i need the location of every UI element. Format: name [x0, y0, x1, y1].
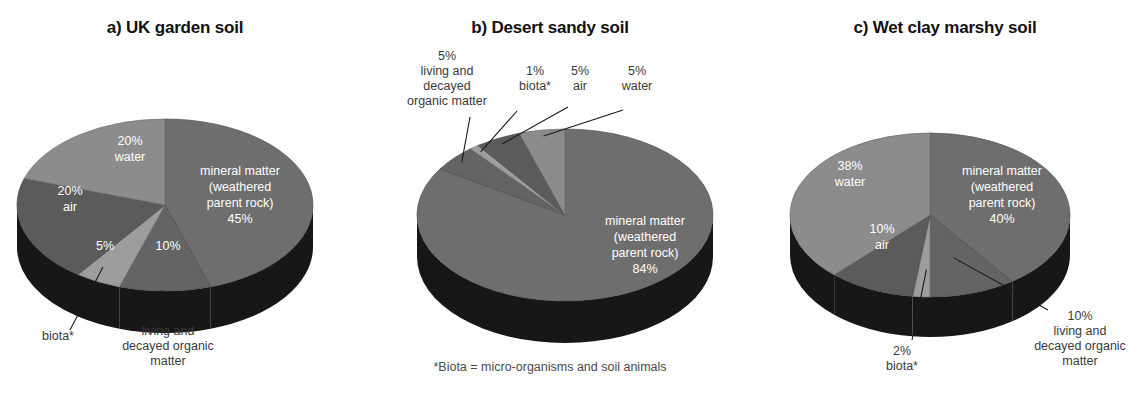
pie-label: 10%: [155, 239, 180, 253]
pie-label: 2%biota*: [886, 344, 918, 373]
pie-label: biota*: [42, 329, 74, 343]
pie-label: 5%living anddecayedorganic matter: [407, 49, 487, 108]
pie-svg-a: mineral matter(weatheredparent rock)45%2…: [0, 0, 350, 399]
chart-panel-desert-sandy-soil: b) Desert sandy soil mineral matter(weat…: [350, 0, 750, 399]
pie-label: 5%water: [621, 64, 653, 93]
chart-panel-uk-garden-soil: a) UK garden soil mineral matter(weather…: [0, 0, 350, 399]
pie-side-wall: [912, 296, 930, 337]
pie-label: 5%: [96, 239, 114, 253]
figure-canvas: a) UK garden soil mineral matter(weather…: [0, 0, 1140, 399]
pie-svg-c: mineral matter(weatheredparent rock)40%3…: [750, 0, 1140, 399]
biota-footnote: *Biota = micro-organisms and soil animal…: [350, 360, 750, 374]
pie-label: 10%living anddecayed organicmatter: [1034, 309, 1126, 368]
pie-label: 5%air: [571, 64, 589, 93]
pie-label: 1%biota*: [519, 64, 551, 93]
pie-svg-b: mineral matter(weatheredparent rock)84%5…: [350, 0, 750, 399]
chart-panel-wet-clay-marshy-soil: c) Wet clay marshy soil mineral matter(w…: [750, 0, 1140, 399]
